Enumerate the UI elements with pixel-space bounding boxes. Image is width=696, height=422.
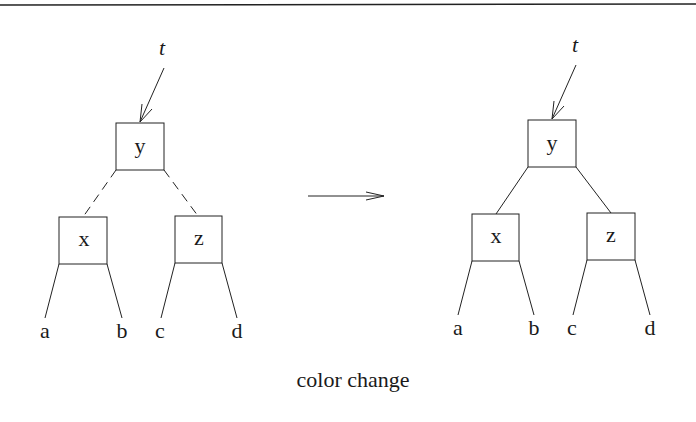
tree-after: t y x z a b c d (453, 32, 655, 340)
leaf-c: c (567, 315, 577, 340)
edge-y-x-dashed (83, 170, 116, 217)
tree-before: t y x z a b c d (40, 35, 242, 343)
pointer-label-t: t (572, 32, 579, 57)
edge-y-x-solid (496, 167, 528, 214)
pointer-arrow (140, 68, 164, 122)
leaf-b: b (117, 318, 128, 343)
node-x-label: x (491, 223, 502, 248)
leaf-b: b (529, 315, 540, 340)
node-z-label: z (606, 222, 616, 247)
caption: color change (297, 367, 410, 392)
node-z-label: z (194, 225, 204, 250)
node-y-label: y (135, 133, 146, 158)
right-arrow-icon (308, 192, 384, 200)
leaf-d: d (232, 318, 243, 343)
node-y-label: y (547, 130, 558, 155)
edge-y-z-solid (576, 167, 611, 213)
leaf-a: a (453, 315, 463, 340)
leaf-a: a (40, 318, 50, 343)
diagram-canvas: t y x z a b c d t y (0, 0, 696, 422)
edge-y-z-dashed (164, 170, 198, 216)
node-x-label: x (79, 226, 90, 251)
leaf-d: d (645, 315, 656, 340)
top-rule (0, 4, 696, 5)
pointer-label-t: t (159, 35, 166, 60)
leaf-c: c (155, 318, 165, 343)
pointer-arrow (552, 65, 576, 119)
